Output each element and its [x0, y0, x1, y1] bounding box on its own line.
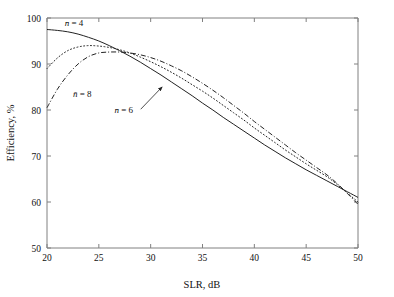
- x-tick-label: 40: [250, 253, 260, 263]
- y-tick-label: 70: [32, 152, 42, 162]
- x-axis-label: SLR, dB: [184, 279, 221, 290]
- figure-container: 202530354045505060708090100 n̄ = 4n̄ = 8…: [0, 0, 394, 297]
- x-tick-label: 20: [42, 253, 52, 263]
- label-n4: n̄ = 4: [65, 18, 84, 28]
- y-tick-label: 60: [32, 198, 42, 208]
- x-tick-label: 50: [353, 253, 363, 263]
- x-tick-label: 25: [94, 253, 104, 263]
- label-n6: n̄ = 6: [114, 105, 133, 115]
- x-tick-label: 45: [301, 253, 311, 263]
- y-axis-label: Efficiency, %: [5, 104, 16, 161]
- label-n8: n̄ = 8: [73, 89, 92, 99]
- x-tick-label: 35: [198, 253, 208, 263]
- y-tick-label: 50: [32, 244, 42, 254]
- efficiency-vs-slr-chart: 202530354045505060708090100 n̄ = 4n̄ = 8…: [0, 0, 394, 297]
- x-tick-label: 30: [146, 253, 156, 263]
- y-tick-label: 90: [32, 60, 42, 70]
- y-tick-label: 80: [32, 106, 42, 116]
- y-tick-label: 100: [27, 14, 42, 24]
